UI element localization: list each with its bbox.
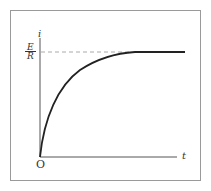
asymptote-denominator: R	[27, 52, 34, 61]
y-axis-label: i	[38, 29, 41, 39]
current-curve	[40, 52, 185, 157]
x-axis-label: t	[182, 151, 186, 161]
rl-current-rise-chart	[0, 0, 211, 191]
origin-label: O	[36, 159, 45, 170]
